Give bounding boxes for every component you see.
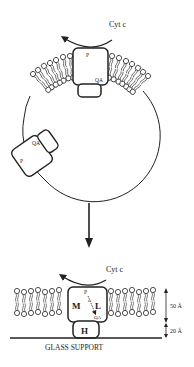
subunit-l-label: L <box>95 301 101 311</box>
reaction-center-top <box>73 48 108 97</box>
dim-50-label: 50 Å <box>170 302 183 309</box>
electron-label: e- <box>88 298 92 303</box>
subunit-m-label: M <box>72 301 81 311</box>
bottom-p-label: P <box>84 289 87 295</box>
subunit-h-label: H <box>81 326 88 336</box>
diagram-canvas: Cyt c P QA P QA Cyt c M L H P e- QA 50 Å… <box>0 0 194 367</box>
dimension-20A <box>164 323 168 338</box>
top-cyt-c-label: Cyt c <box>109 20 127 29</box>
transition-arrow <box>85 203 93 248</box>
left-qa-label: QA <box>32 140 40 146</box>
lipid-bilayer-bottom-right <box>108 287 155 316</box>
bottom-qa-label: QA <box>94 315 102 320</box>
lipid-bilayer-bottom-left <box>14 287 61 316</box>
dimension-50A <box>164 288 168 323</box>
lipid-bilayer-top-right <box>106 53 152 95</box>
bottom-cyt-c-label: Cyt c <box>106 265 124 274</box>
lipid-bilayer-top-left <box>29 53 76 93</box>
dim-20-label: 20 Å <box>170 327 183 334</box>
top-cyt-arrow <box>64 38 112 47</box>
glass-support-label: GLASS SUPPORT <box>45 343 104 352</box>
top-qa-label: QA <box>95 77 103 83</box>
bottom-cyt-arrow <box>62 276 106 285</box>
reaction-center-left <box>10 127 64 178</box>
left-p-label: P <box>20 158 23 164</box>
top-p-label: P <box>86 52 89 58</box>
